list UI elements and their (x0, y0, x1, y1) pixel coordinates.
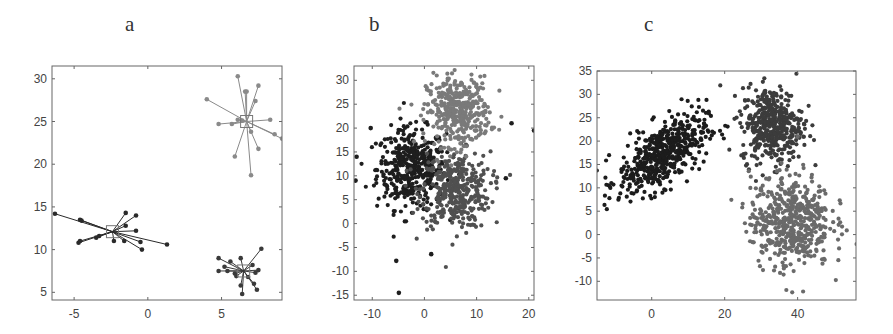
svg-text:-10: -10 (364, 307, 382, 321)
svg-text:20: 20 (336, 121, 350, 135)
svg-text:0: 0 (648, 307, 655, 321)
svg-text:0: 0 (585, 228, 592, 242)
svg-text:-5: -5 (581, 251, 592, 265)
svg-text:40: 40 (791, 307, 805, 321)
svg-text:30: 30 (336, 73, 350, 87)
svg-text:15: 15 (336, 145, 350, 159)
svg-text:25: 25 (336, 97, 350, 111)
svg-text:0: 0 (421, 307, 428, 321)
svg-text:5: 5 (342, 193, 349, 207)
svg-text:25: 25 (579, 111, 593, 125)
svg-text:20: 20 (34, 157, 48, 171)
svg-text:5: 5 (40, 285, 47, 299)
svg-text:10: 10 (579, 181, 593, 195)
svg-text:-5: -5 (69, 307, 80, 321)
svg-text:25: 25 (34, 115, 48, 129)
svg-text:-10: -10 (332, 264, 350, 278)
svg-text:5: 5 (218, 307, 225, 321)
svg-text:5: 5 (585, 204, 592, 218)
chart-figure: -50551015202530 -1001020-15-10-505101520… (0, 0, 893, 334)
svg-text:-5: -5 (338, 240, 349, 254)
scatter-panel-c: 02040-10-505101520253035 (575, 56, 859, 321)
svg-text:15: 15 (579, 157, 593, 171)
svg-text:20: 20 (522, 307, 536, 321)
svg-text:30: 30 (579, 87, 593, 101)
svg-text:35: 35 (579, 64, 593, 78)
scatter-panel-b: -1001020-15-10-5051015202530 (332, 66, 537, 321)
svg-text:0: 0 (342, 217, 349, 231)
svg-text:10: 10 (336, 169, 350, 183)
svg-text:15: 15 (34, 200, 48, 214)
svg-text:20: 20 (718, 307, 732, 321)
svg-text:-15: -15 (332, 288, 350, 302)
svg-text:-10: -10 (575, 274, 593, 288)
svg-text:20: 20 (579, 134, 593, 148)
svg-text:10: 10 (470, 307, 484, 321)
scatter-panel-a: -50551015202530 (34, 66, 285, 321)
svg-text:10: 10 (34, 243, 48, 257)
svg-text:30: 30 (34, 72, 48, 86)
svg-text:0: 0 (144, 307, 151, 321)
